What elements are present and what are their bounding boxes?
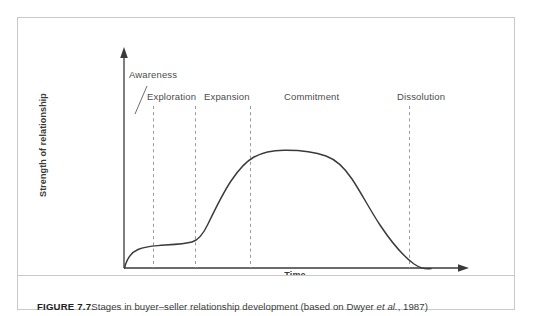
caption-text-part-1: Stages in buyer–seller relationship deve… [91, 301, 376, 312]
stage-label-awareness: Awareness [129, 69, 177, 80]
stage-label-exploration: Exploration [147, 91, 196, 102]
stage-label-dissolution: Dissolution [397, 91, 445, 102]
relationship-strength-curve [125, 150, 432, 269]
y-axis [120, 47, 128, 268]
caption-divider [18, 275, 514, 276]
stage-label-expansion: Expansion [204, 91, 250, 102]
figure-caption: FIGURE 7.7Stages in buyer–seller relatio… [37, 301, 428, 312]
awareness-leader-line [135, 86, 147, 114]
caption-text-part-2: , 1987) [398, 301, 428, 312]
stage-label-commitment: Commitment [284, 91, 339, 102]
figure-card: Awareness Exploration Expansion Commitme… [17, 17, 515, 310]
chart-plot-area: Awareness Exploration Expansion Commitme… [18, 18, 514, 276]
y-axis-title: Strength of relationship [38, 75, 48, 215]
caption-figure-number: FIGURE 7.7 [37, 301, 91, 312]
stage-boundary-lines [154, 106, 410, 268]
caption-italic-citation: et al. [377, 301, 398, 312]
relationship-stages-chart [18, 18, 514, 276]
